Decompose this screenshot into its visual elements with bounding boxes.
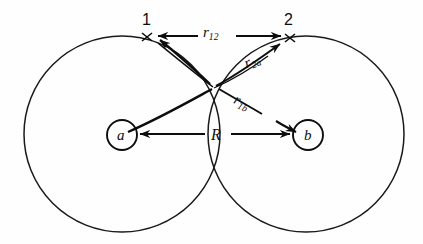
vector-r2a-tail-to-1 — [158, 43, 213, 87]
r12-subscript: 12 — [209, 31, 219, 42]
nucleus-b-label: b — [304, 128, 312, 143]
vector-r12-label: r12 — [203, 25, 219, 41]
nucleus-a-label: a — [117, 128, 125, 143]
electron-1-label: 1 — [142, 12, 151, 28]
electron-2-label: 2 — [284, 12, 293, 28]
internuclear-distance-label: R — [211, 127, 221, 143]
figure-canvas: 1 2 r12 r2a r1b R a b — [0, 0, 423, 244]
vector-r1b — [160, 40, 296, 132]
